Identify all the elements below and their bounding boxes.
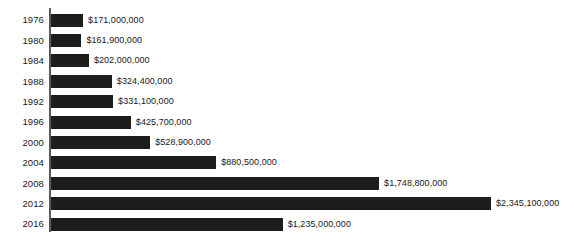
bar-value-label: $2,345,100,000	[496, 199, 559, 208]
bar-value-label: $202,000,000	[94, 56, 150, 65]
bar	[51, 14, 83, 27]
bar-chart: 1976$171,000,0001980$161,900,0001984$202…	[0, 0, 588, 247]
year-axis-label: 2008	[0, 179, 44, 189]
bar-with-value: $528,900,000	[51, 136, 211, 149]
year-axis-label: 1992	[0, 97, 44, 107]
bar	[51, 156, 216, 169]
bar-with-value: $161,900,000	[51, 34, 142, 47]
bar-value-label: $331,100,000	[118, 97, 174, 106]
bar-row: 2004$880,500,000	[0, 153, 588, 173]
bar-with-value: $1,748,800,000	[51, 177, 447, 190]
bar-value-label: $171,000,000	[88, 16, 144, 25]
bar-row: 1988$324,400,000	[0, 71, 588, 91]
bar	[51, 34, 81, 47]
bar	[51, 116, 131, 129]
bar-row: 1984$202,000,000	[0, 51, 588, 71]
year-axis-label: 1988	[0, 77, 44, 87]
bar-row: 2000$528,900,000	[0, 132, 588, 152]
bar	[51, 54, 89, 67]
bar-value-label: $161,900,000	[86, 36, 142, 45]
bar-with-value: $331,100,000	[51, 95, 174, 108]
bar-value-label: $324,400,000	[117, 77, 173, 86]
bar-row: 1976$171,000,000	[0, 10, 588, 30]
year-axis-label: 2012	[0, 199, 44, 209]
bar-row: 2008$1,748,800,000	[0, 173, 588, 193]
year-axis-label: 1976	[0, 15, 44, 25]
bar-row: 1980$161,900,000	[0, 30, 588, 50]
bar-value-label: $880,500,000	[221, 158, 277, 167]
bar	[51, 136, 150, 149]
bar-value-label: $425,700,000	[136, 118, 192, 127]
bar-value-label: $1,748,800,000	[384, 179, 447, 188]
bar-value-label: $528,900,000	[155, 138, 211, 147]
year-axis-label: 1996	[0, 117, 44, 127]
bar-row: 2012$2,345,100,000	[0, 194, 588, 214]
bar-with-value: $171,000,000	[51, 14, 144, 27]
bar	[51, 218, 283, 231]
bar	[51, 177, 379, 190]
bar	[51, 75, 112, 88]
bar-row: 1992$331,100,000	[0, 92, 588, 112]
bar-with-value: $425,700,000	[51, 116, 192, 129]
bar-with-value: $2,345,100,000	[51, 197, 559, 210]
year-axis-label: 2004	[0, 158, 44, 168]
bar	[51, 95, 113, 108]
bar	[51, 197, 491, 210]
year-axis-label: 2000	[0, 138, 44, 148]
year-axis-label: 1984	[0, 56, 44, 66]
bar-with-value: $880,500,000	[51, 156, 277, 169]
year-axis-label: 1980	[0, 36, 44, 46]
bar-with-value: $324,400,000	[51, 75, 173, 88]
plot-area: 1976$171,000,0001980$161,900,0001984$202…	[0, 0, 588, 247]
bar-with-value: $1,235,000,000	[51, 218, 351, 231]
bar-with-value: $202,000,000	[51, 54, 150, 67]
year-axis-label: 2016	[0, 219, 44, 229]
bar-value-label: $1,235,000,000	[288, 220, 351, 229]
bar-row: 1996$425,700,000	[0, 112, 588, 132]
bar-row: 2016$1,235,000,000	[0, 214, 588, 234]
